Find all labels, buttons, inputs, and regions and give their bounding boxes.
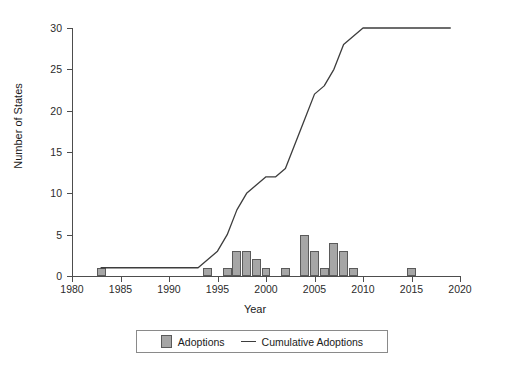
line-series-cumulative-adoptions [72,28,460,276]
legend-line-icon [241,341,256,342]
x-tick-mark [460,277,461,282]
y-tick-label: 5 [36,230,62,240]
legend-entry-cumulative-adoptions: Cumulative Adoptions [241,336,364,348]
x-tick-label: 2005 [295,284,335,295]
x-tick-mark [315,277,316,282]
x-tick-label: 1980 [52,284,92,295]
x-axis-title: Year [0,303,510,315]
legend-label-cumulative-adoptions: Cumulative Adoptions [262,336,364,348]
x-tick-mark [121,277,122,282]
y-tick-label: 25 [36,64,62,74]
y-tick-label: 20 [36,106,62,116]
y-tick-label: 30 [36,23,62,33]
x-tick-mark [169,277,170,282]
x-tick-label: 1985 [101,284,141,295]
legend-entry-adoptions: Adoptions [161,335,225,348]
x-tick-mark [412,277,413,282]
y-tick-label: 0 [36,271,62,281]
adoptions-chart: Number of States Year 051015202530 19801… [0,0,510,371]
x-tick-label: 1995 [198,284,238,295]
chart-legend: Adoptions Cumulative Adoptions [136,330,388,353]
x-tick-label: 2020 [440,284,480,295]
y-tick-label: 15 [36,147,62,157]
y-tick-label: 10 [36,188,62,198]
legend-swatch-icon [161,335,172,348]
x-tick-label: 1990 [149,284,189,295]
x-tick-mark [218,277,219,282]
plot-area [72,28,460,276]
x-tick-mark [266,277,267,282]
legend-label-adoptions: Adoptions [178,336,225,348]
x-tick-label: 2000 [246,284,286,295]
x-tick-mark [72,277,73,282]
y-axis-title: Number of States [12,46,24,206]
x-tick-label: 2010 [343,284,383,295]
x-tick-mark [363,277,364,282]
cumulative-polyline [101,28,450,268]
x-tick-label: 2015 [392,284,432,295]
